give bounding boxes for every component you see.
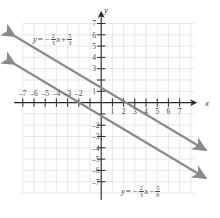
y-tick-label: 7 bbox=[92, 19, 96, 28]
equation1-equals: = bbox=[37, 34, 44, 44]
x-tick-label: 2 bbox=[122, 107, 126, 116]
y-tick-label: 5 bbox=[92, 42, 96, 51]
x-tick-label: –6 bbox=[29, 89, 38, 98]
x-tick-label: 4 bbox=[144, 107, 148, 116]
y-tick-label: –5 bbox=[91, 155, 100, 164]
y-tick-label: 3 bbox=[92, 64, 96, 73]
x-tick-label: 1 bbox=[111, 107, 115, 116]
x-tick-label: –5 bbox=[40, 89, 49, 98]
x-tick-label: 7 bbox=[178, 107, 182, 116]
equation2-intercept-denominator: 6 bbox=[155, 191, 160, 198]
x-tick-label: –2 bbox=[74, 89, 83, 98]
equation1-plus: + bbox=[60, 34, 67, 44]
x-tick-label: –4 bbox=[52, 89, 61, 98]
x-tick-label: –7 bbox=[18, 89, 27, 98]
y-tick-label: –7 bbox=[91, 178, 100, 187]
y-tick-label: 4 bbox=[92, 53, 96, 62]
equation2-fraction-intercept: 56 bbox=[155, 185, 160, 199]
x-tick-label: –3 bbox=[63, 89, 72, 98]
x-tick-label: 6 bbox=[167, 107, 171, 116]
y-tick-label: –4 bbox=[91, 144, 100, 153]
y-tick-label: 1 bbox=[92, 87, 96, 96]
x-tick-label: 3 bbox=[133, 107, 137, 116]
chart-figure: y x –7 –6 –5 –4 –3 –2 1 2 3 4 5 6 7 7 6 … bbox=[0, 0, 220, 218]
equation2-sign: − bbox=[148, 186, 155, 196]
equation-label-line-1: y=−23x+53 bbox=[33, 33, 73, 47]
y-tick-label: –6 bbox=[91, 166, 100, 175]
x-axis-label: x bbox=[204, 98, 209, 108]
y-axis-label: y bbox=[103, 5, 108, 15]
y-tick-label: –2 bbox=[91, 121, 100, 130]
equation-label-line-2: y=−23x−56 bbox=[121, 185, 161, 199]
equation1-fraction-intercept: 53 bbox=[67, 33, 72, 47]
y-tick-label: 6 bbox=[92, 31, 96, 40]
equation2-equals: = bbox=[125, 186, 132, 196]
y-tick-label: –3 bbox=[91, 132, 100, 141]
x-tick-label: 5 bbox=[155, 107, 159, 116]
equation1-intercept-denominator: 3 bbox=[67, 39, 72, 46]
equation2-minus: − bbox=[132, 186, 139, 196]
data-line-2 bbox=[15, 64, 206, 178]
equation1-minus: − bbox=[44, 34, 51, 44]
